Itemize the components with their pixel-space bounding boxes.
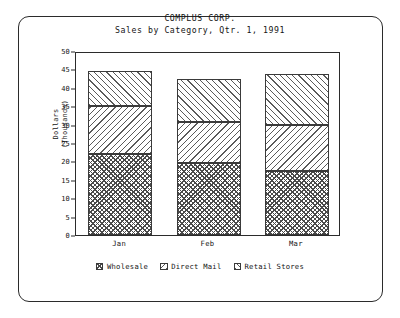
bar-segment	[177, 163, 241, 235]
legend-label: Direct Mail	[171, 262, 221, 271]
x-axis: JanFebMar	[75, 239, 340, 253]
y-axis-tick-label: 5	[66, 214, 70, 222]
y-axis-tick-label: 10	[61, 195, 70, 203]
y-axis-tick-label: 0	[66, 232, 70, 240]
chart-title-block: COMPLUS CORP. Sales by Category, Qtr. 1,…	[0, 12, 400, 36]
chart-subtitle: Sales by Category, Qtr. 1, 1991	[0, 24, 400, 36]
y-axis: 05101520253035404550	[50, 52, 75, 236]
bar-segment	[88, 106, 152, 154]
legend-item: Retail Stores	[234, 262, 305, 271]
bar-group	[88, 51, 152, 235]
bar-segment	[88, 71, 152, 107]
legend-item: Wholesale	[96, 262, 148, 271]
y-axis-tick-label: 30	[61, 122, 70, 130]
bar-group	[177, 51, 241, 235]
y-axis-tick-label: 35	[61, 103, 70, 111]
y-axis-tick-label: 25	[61, 140, 70, 148]
x-axis-tick-label: Mar	[289, 239, 303, 248]
bar-segment	[265, 74, 329, 124]
y-axis-tick-label: 20	[61, 158, 70, 166]
bar-segment	[265, 125, 329, 171]
bar-segment	[177, 122, 241, 163]
y-axis-tick-label: 45	[61, 66, 70, 74]
chart-title: COMPLUS CORP.	[0, 12, 400, 24]
bar-group	[265, 51, 329, 235]
legend-label: Retail Stores	[245, 262, 305, 271]
legend-label: Wholesale	[107, 262, 148, 271]
legend-swatch	[96, 263, 104, 271]
bar-segment	[88, 154, 152, 235]
y-axis-tick-label: 40	[61, 85, 70, 93]
plot-area	[75, 52, 340, 236]
plot-inner	[76, 53, 339, 235]
bar-segment	[265, 171, 329, 235]
chart-legend: WholesaleDirect MailRetail Stores	[0, 262, 400, 271]
legend-item: Direct Mail	[160, 262, 221, 271]
legend-swatch	[234, 263, 242, 271]
x-axis-tick-label: Feb	[201, 239, 215, 248]
y-axis-tick-label: 15	[61, 177, 70, 185]
bar-segment	[177, 79, 241, 122]
legend-swatch	[160, 263, 168, 271]
y-axis-tick-label: 50	[61, 48, 70, 56]
x-axis-tick-label: Jan	[112, 239, 126, 248]
